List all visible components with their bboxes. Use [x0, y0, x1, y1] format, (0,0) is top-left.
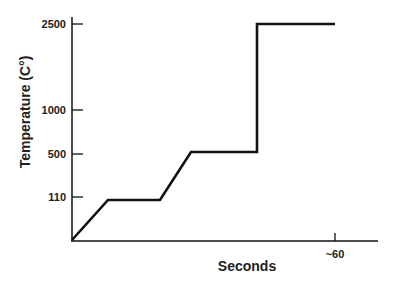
y-tick-label: 2500: [42, 18, 66, 30]
y-tick-label: 500: [48, 148, 66, 160]
y-tick-label: 110: [48, 191, 66, 203]
y-axis-title: Temperature (C°): [17, 56, 33, 169]
x-tick-label: ~60: [326, 248, 345, 260]
x-axis-title: Seconds: [218, 258, 277, 274]
chart: 2500 1000 500 110 ~60 Seconds Temperatur…: [0, 0, 394, 284]
y-tick-label: 1000: [42, 104, 66, 116]
temperature-line: [72, 24, 335, 240]
